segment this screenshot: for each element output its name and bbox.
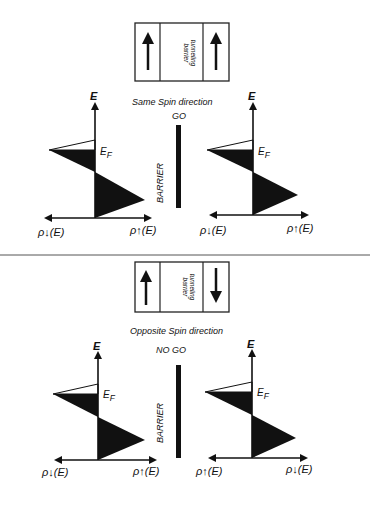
top-right-x-left-label: ρ↓(E)	[200, 224, 226, 236]
bottom-right-dos-plot	[205, 351, 306, 458]
top-caption: Same Spin direction	[132, 97, 213, 107]
bottom-left-e-axis-label: E	[93, 340, 100, 352]
bottom-right-x-left-label: ρ↑(E)	[196, 465, 222, 477]
bottom-barrier-label: BARRIER	[155, 403, 165, 443]
bottom-caption: Opposite Spin direction	[130, 326, 223, 336]
top-left-dos-plot	[46, 104, 150, 218]
top-right-e-axis-label: E	[248, 90, 255, 102]
top-status: GO	[172, 111, 186, 121]
box-label-line1: tunneling	[190, 38, 197, 68]
top-left-fermi-label: EF	[100, 146, 112, 160]
bottom-status: NO GO	[156, 345, 186, 355]
top-box-label: tunneling barrier	[167, 38, 197, 68]
top-left-x-left-label: ρ↓(E)	[38, 226, 64, 238]
bottom-right-x-right-label: ρ↓(E)	[286, 463, 312, 475]
bottom-left-x-right-label: ρ↑(E)	[133, 465, 159, 477]
bottom-barrier-bar	[176, 365, 181, 458]
top-barrier-label: BARRIER	[155, 163, 165, 203]
diagram-canvas	[0, 0, 370, 512]
top-right-dos-plot	[207, 104, 307, 215]
bottom-right-e-axis-label: E	[247, 338, 254, 350]
top-left-e-axis-label: E	[90, 90, 97, 102]
bottom-right-fermi-label: EF	[257, 387, 269, 401]
bottom-box-label: tunneling barrier	[168, 272, 196, 302]
box-label-line1: tunneling	[189, 272, 196, 302]
top-right-x-right-label: ρ↑(E)	[287, 222, 313, 234]
bottom-left-x-left-label: ρ↓(E)	[42, 466, 68, 478]
top-barrier-bar	[176, 125, 181, 208]
top-right-fermi-label: EF	[258, 146, 270, 160]
top-left-x-right-label: ρ↑(E)	[130, 224, 156, 236]
box-label-line2: barrier	[183, 38, 190, 68]
box-label-line2: barrier	[182, 272, 189, 302]
bottom-left-fermi-label: EF	[103, 389, 115, 403]
bottom-left-dos-plot	[53, 353, 155, 460]
